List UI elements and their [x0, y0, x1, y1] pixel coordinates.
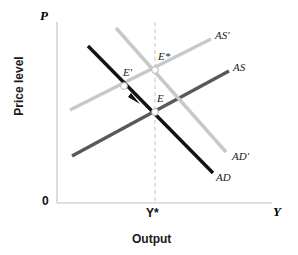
- curve-label-ad: AD: [216, 171, 231, 183]
- curve-label-as-prime: AS': [215, 29, 230, 41]
- point-label-e-prime: E': [123, 66, 132, 78]
- y-axis-title-wrap: Price level: [9, 41, 29, 131]
- curve-label-ad-prime: AD': [232, 150, 249, 162]
- curve-as: [72, 71, 229, 156]
- origin-label: 0: [42, 194, 49, 208]
- curve-label-as: AS: [233, 61, 245, 73]
- point-label-e: E: [157, 92, 164, 104]
- y-axis-title: Price level: [12, 56, 26, 115]
- x-axis-title: Output: [132, 232, 171, 246]
- point-e-star-marker: [152, 67, 159, 74]
- x-axis-letter: Y: [273, 204, 281, 220]
- point-label-e-star: E*: [158, 50, 170, 62]
- ad-as-diagram: P Y 0 Y* Price level Output AS' AS AD' A…: [0, 0, 298, 255]
- point-e-prime-marker: [121, 83, 128, 90]
- x-tick-label-y-star: Y*: [146, 206, 159, 220]
- y-axis-letter: P: [40, 8, 48, 24]
- point-e-marker: [152, 109, 159, 116]
